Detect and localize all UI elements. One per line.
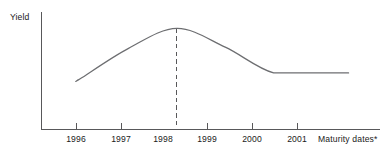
yield-curve-chart: Yield 1996 1997 1998 1999 2000 2001 Matu… (0, 0, 387, 150)
chart-canvas: Yield 1996 1997 1998 1999 2000 2001 Matu… (0, 0, 387, 150)
x-tick-label-2001: 2001 (287, 134, 307, 144)
x-tick-label-1998: 1998 (153, 134, 173, 144)
x-tick-label-1999: 1999 (197, 134, 217, 144)
x-tick-label-1997: 1997 (111, 134, 131, 144)
x-tick-label-2000: 2000 (242, 134, 262, 144)
yield-curve-line (76, 28, 349, 81)
x-axis-caption: Maturity dates* (318, 134, 378, 144)
y-axis-title: Yield (10, 12, 30, 22)
x-tick-label-1996: 1996 (66, 134, 86, 144)
